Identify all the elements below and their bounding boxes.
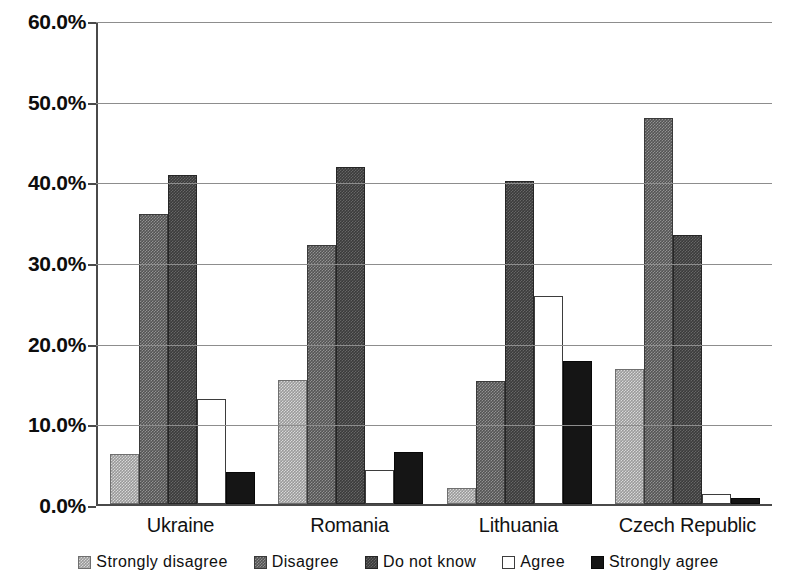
legend-swatch-icon	[254, 556, 267, 569]
legend-label: Agree	[520, 553, 565, 571]
y-axis-tick-label: 10.0%	[0, 413, 86, 437]
legend-swatch-icon	[365, 556, 378, 569]
bar	[505, 181, 534, 504]
bar-group	[267, 22, 436, 504]
gridline	[96, 425, 772, 426]
y-axis-tick-mark	[88, 183, 96, 185]
bar	[110, 454, 139, 504]
legend-label: Do not know	[383, 553, 476, 571]
bar-group	[435, 22, 604, 504]
y-axis-tick-label: 60.0%	[0, 10, 86, 34]
bar-group	[604, 22, 773, 504]
bar	[702, 494, 731, 504]
y-axis-tick-label: 50.0%	[0, 91, 86, 115]
y-axis-tick-label: 40.0%	[0, 171, 86, 195]
bar	[447, 488, 476, 504]
bar-group	[98, 22, 267, 504]
bar	[394, 452, 423, 504]
y-axis-tick-label: 0.0%	[0, 494, 86, 518]
chart-legend: Strongly disagreeDisagreeDo not knowAgre…	[0, 549, 797, 575]
legend-swatch-icon	[591, 556, 604, 569]
legend-swatch-icon	[78, 556, 91, 569]
y-axis-tick-label: 30.0%	[0, 252, 86, 276]
x-axis-category-label: Czech Republic	[603, 514, 772, 544]
bar	[197, 399, 226, 504]
legend-item[interactable]: Strongly agree	[591, 553, 719, 571]
bar-groups	[98, 22, 772, 504]
legend-item[interactable]: Agree	[502, 553, 565, 571]
legend-label: Strongly disagree	[96, 553, 227, 571]
gridline	[96, 22, 772, 23]
x-axis-category-label: Lithuania	[434, 514, 603, 544]
y-axis-tick-mark	[88, 264, 96, 266]
legend-item[interactable]: Do not know	[365, 553, 476, 571]
bar	[644, 118, 673, 504]
bar	[336, 167, 365, 504]
y-axis-tick-mark	[88, 425, 96, 427]
bar	[615, 369, 644, 504]
bar-chart: 0.0%10.0%20.0%30.0%40.0%50.0%60.0% Ukrai…	[0, 0, 797, 577]
bar	[307, 245, 336, 504]
y-axis-tick-mark	[88, 22, 96, 24]
legend-label: Disagree	[272, 553, 339, 571]
y-axis-tick-mark	[88, 345, 96, 347]
legend-item[interactable]: Strongly disagree	[78, 553, 227, 571]
bar	[476, 381, 505, 504]
bar	[168, 175, 197, 504]
bar-group-bars	[604, 22, 773, 504]
bar-group-bars	[98, 22, 267, 504]
bar	[365, 470, 394, 504]
bar	[534, 296, 563, 504]
bar	[226, 472, 255, 504]
y-axis-tick-mark	[88, 103, 96, 105]
bar	[139, 214, 168, 504]
bar	[563, 361, 592, 504]
bar-group-bars	[435, 22, 604, 504]
legend-label: Strongly agree	[609, 553, 719, 571]
bar-group-bars	[267, 22, 436, 504]
legend-item[interactable]: Disagree	[254, 553, 339, 571]
bar	[278, 380, 307, 504]
x-axis-category-label: Ukraine	[96, 514, 265, 544]
gridline	[96, 264, 772, 265]
y-axis-tick-mark	[88, 506, 96, 508]
gridline	[96, 183, 772, 184]
legend-swatch-icon	[502, 556, 515, 569]
bar	[673, 235, 702, 504]
bar	[731, 498, 760, 504]
gridline	[96, 345, 772, 346]
x-axis-labels: UkraineRomaniaLithuaniaCzech Republic	[96, 514, 772, 544]
y-axis-tick-label: 20.0%	[0, 333, 86, 357]
x-axis-category-label: Romania	[265, 514, 434, 544]
gridline	[96, 103, 772, 104]
